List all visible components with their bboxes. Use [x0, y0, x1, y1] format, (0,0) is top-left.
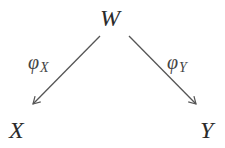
phi-subscript-y: Y [179, 60, 187, 75]
node-y: Y [200, 118, 213, 142]
edge-label-phi-y: φY [167, 52, 187, 75]
phi-symbol: φ [167, 51, 178, 73]
phi-subscript-x: X [40, 60, 49, 75]
node-w: W [100, 6, 120, 30]
node-x: X [9, 118, 24, 142]
phi-symbol: φ [28, 51, 39, 73]
edge-label-phi-x: φX [28, 52, 49, 75]
